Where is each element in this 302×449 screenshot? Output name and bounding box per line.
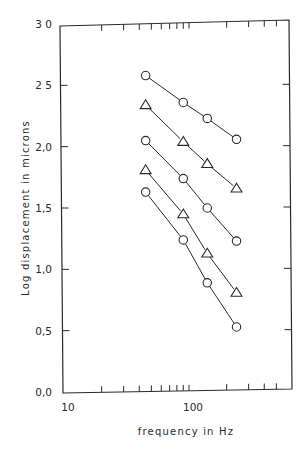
y-tick-label: 0,5 — [35, 325, 52, 337]
series-line — [148, 195, 180, 236]
series-line — [149, 78, 180, 100]
series-line — [210, 211, 234, 238]
series-line — [210, 167, 233, 186]
series-line — [148, 173, 180, 211]
circle-marker — [141, 188, 149, 196]
plot-frame — [60, 20, 292, 393]
triangle-marker — [202, 248, 213, 257]
series-circle — [141, 136, 240, 245]
plot-border — [60, 20, 292, 393]
circle-marker — [141, 136, 149, 144]
y-tick-label: 2,0 — [35, 141, 52, 153]
series-line — [211, 121, 233, 137]
y-tick-label: 2 5 — [35, 79, 52, 91]
series-circle — [141, 71, 240, 143]
y-tick-label: 1,0 — [35, 263, 52, 275]
y-tick-label: 0,0 — [35, 386, 52, 398]
circle-marker — [232, 323, 240, 331]
triangle-marker — [140, 100, 151, 109]
circle-marker — [179, 236, 187, 244]
data-series — [140, 71, 242, 331]
circle-marker — [232, 237, 240, 245]
series-line — [185, 244, 205, 280]
circle-marker — [179, 98, 187, 106]
series-line — [187, 105, 204, 116]
triangle-marker — [140, 165, 151, 174]
y-tick-label: 1,5 — [35, 202, 52, 214]
circle-marker — [179, 174, 187, 182]
chart: 0,00,51,01,52,02 53 0 10100 frequency in… — [0, 0, 302, 449]
x-tick-label: 10 — [61, 401, 74, 413]
circle-marker — [203, 279, 211, 287]
circle-marker — [141, 71, 149, 79]
series-line — [210, 257, 234, 290]
y-axis-ticks: 0,00,51,01,52,02 53 0 — [35, 18, 291, 398]
series-circle — [141, 188, 240, 331]
triangle-marker — [231, 183, 242, 192]
y-axis-title: Log displacement in microns — [20, 120, 31, 296]
x-tick-label: 100 — [183, 401, 203, 413]
series-line — [185, 218, 205, 250]
series-line — [186, 182, 205, 205]
circle-marker — [203, 204, 211, 212]
series-line — [149, 144, 181, 176]
series-triangle — [140, 100, 242, 192]
circle-marker — [203, 114, 211, 122]
series-line — [210, 286, 235, 323]
series-line — [149, 108, 181, 139]
circle-marker — [232, 135, 240, 143]
y-tick-label: 3 0 — [35, 18, 52, 30]
series-line — [186, 145, 204, 161]
x-axis-title: frequency in Hz — [138, 426, 234, 437]
triangle-marker — [231, 287, 242, 296]
x-axis-ticks: 10100 — [61, 20, 276, 413]
